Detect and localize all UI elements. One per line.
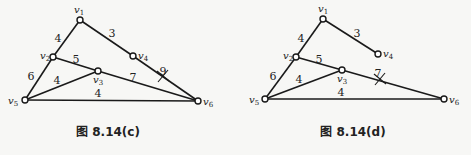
node-label-v2: v2: [283, 50, 293, 63]
edge-v3-v5: [25, 71, 98, 100]
edge-weight: 6: [270, 70, 277, 83]
node-label-v1: v1: [318, 3, 328, 16]
edge-weight: 7: [130, 71, 137, 84]
edge-weight: 4: [296, 73, 303, 86]
node-v6: [195, 98, 201, 104]
edge-v5-v6: [25, 100, 198, 101]
edge-weight: 4: [298, 32, 305, 45]
edge-weight: 3: [354, 27, 361, 40]
node-v2: [293, 54, 299, 60]
node-v5: [262, 96, 268, 102]
edge-v3-v6: [342, 70, 444, 99]
node-label-v5: v5: [8, 95, 18, 108]
node-v4: [130, 53, 136, 59]
node-label-v2: v2: [40, 50, 50, 63]
edge-v1-v4: [323, 19, 378, 54]
edge-weight: 5: [73, 53, 80, 66]
node-label-v3: v3: [337, 73, 347, 86]
node-label-v5: v5: [249, 94, 259, 107]
node-label-v4: v4: [383, 48, 394, 61]
node-v6: [441, 96, 447, 102]
figure-caption: 图 8.14(c): [76, 125, 140, 139]
node-label-v6: v6: [203, 96, 214, 109]
edge-v3-v6: [98, 71, 198, 101]
figure-c: 43956474v1v2v3v4v5v6图 8.14(c): [8, 4, 214, 139]
edge-weight: 3: [109, 27, 116, 40]
edge-weight: 4: [55, 32, 62, 45]
edge-weight: 6: [28, 70, 35, 83]
node-v4: [375, 51, 381, 57]
edge-weight: 4: [95, 87, 102, 100]
edge-weight: 4: [54, 74, 61, 87]
edge-v1-v4: [80, 20, 133, 56]
figure-caption: 图 8.14(d): [320, 125, 385, 139]
node-label-v6: v6: [449, 94, 460, 107]
figure-d: 4356474v1v2v3v4v5v6图 8.14(d): [249, 3, 460, 139]
node-v1: [77, 17, 83, 23]
node-label-v3: v3: [93, 74, 103, 87]
edge-weight: 5: [316, 53, 323, 66]
graph-figures: 43956474v1v2v3v4v5v6图 8.14(c)4356474v1v2…: [0, 0, 471, 155]
node-v5: [22, 97, 28, 103]
node-label-v1: v1: [74, 4, 84, 17]
edge-weight: 4: [338, 86, 345, 99]
node-v2: [50, 54, 56, 60]
node-v1: [320, 16, 326, 22]
